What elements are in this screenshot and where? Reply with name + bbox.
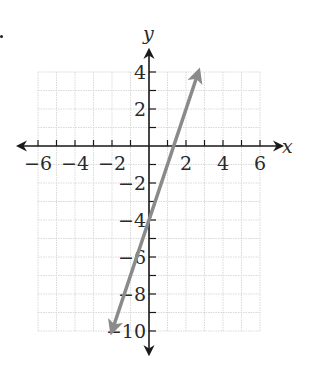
- x-tick-label: −6: [24, 152, 52, 174]
- line-series: [112, 72, 198, 331]
- x-axis-label: x: [282, 135, 293, 157]
- x-tick-label: −4: [61, 152, 89, 174]
- y-tick-label: −2: [118, 172, 146, 194]
- x-tick-label: 6: [254, 152, 266, 174]
- x-tick-label: 4: [217, 152, 229, 174]
- coordinate-plane: −6−4−224642−2−4−6−8−10 x y: [0, 0, 310, 373]
- y-tick-label: 2: [134, 98, 146, 120]
- y-axis-label: y: [142, 22, 154, 44]
- y-tick-label: −6: [118, 246, 146, 268]
- y-tick-label: −4: [118, 209, 146, 231]
- tick-labels: −6−4−224642−2−4−6−8−10: [24, 61, 266, 342]
- y-tick-label: −10: [106, 320, 146, 342]
- x-tick-label: 2: [180, 152, 192, 174]
- y-tick-label: 4: [134, 61, 146, 83]
- x-tick-label: −2: [98, 152, 126, 174]
- line-y-equals-3x-minus-4: [112, 72, 198, 331]
